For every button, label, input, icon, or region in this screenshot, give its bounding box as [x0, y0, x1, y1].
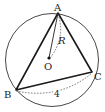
center-point-o	[47, 56, 50, 59]
label-a: A	[53, 2, 62, 13]
label-c: C	[94, 71, 102, 82]
circle-triangle-diagram: A B C O R 4	[0, 0, 105, 112]
triangle-abc	[16, 13, 92, 90]
label-b: B	[4, 89, 11, 100]
label-radius-r: R	[57, 35, 66, 46]
label-o: O	[44, 61, 52, 72]
label-side-bc: 4	[54, 89, 60, 99]
